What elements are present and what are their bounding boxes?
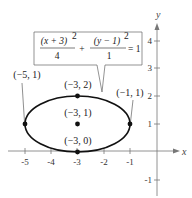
point-covertex-top — [75, 94, 80, 99]
point-center — [75, 122, 80, 127]
y-tick-label: 4 — [148, 36, 153, 46]
equation-term2-numerator: (y − 1) — [94, 36, 120, 47]
y-tick-label: 3 — [148, 63, 153, 73]
point-covertex-bottom — [75, 150, 80, 155]
leader-line — [131, 100, 134, 122]
point-label: (−3, 0) — [64, 135, 91, 147]
y-axis-label: y — [155, 9, 161, 20]
ellipse-chart: x -5 -4 -3 -2 -1 y -1 1 2 3 4 — [0, 0, 192, 198]
y-tick-label: -1 — [145, 175, 153, 185]
x-tick-label: -3 — [73, 157, 81, 167]
equation-equals: = 1 — [128, 44, 141, 54]
x-tick-label: -5 — [21, 157, 29, 167]
x-axis-label: x — [181, 146, 187, 157]
equation-plus: + — [79, 44, 84, 54]
point-label: (−3, 2) — [64, 79, 91, 91]
equation-term1-denominator: 4 — [55, 51, 60, 61]
x-tick-label: -4 — [47, 157, 55, 167]
x-tick-label: -2 — [100, 157, 108, 167]
x-axis: x -5 -4 -3 -2 -1 — [8, 146, 187, 167]
equation-term2-denominator: 1 — [107, 51, 112, 61]
point-label: (−5, 1) — [13, 69, 40, 81]
point-label: (−3, 1) — [64, 107, 91, 119]
leader-line — [22, 83, 25, 122]
point-vertex-left — [23, 122, 28, 127]
point-vertex-right — [128, 122, 133, 127]
x-tick-label: -1 — [126, 157, 134, 167]
point-label: (−1, 1) — [116, 87, 143, 99]
y-tick-label: 1 — [148, 119, 153, 129]
equation-term1-exponent: 2 — [72, 31, 77, 41]
equation-term2-exponent: 2 — [124, 31, 129, 41]
equation-term1-numerator: (x + 3) — [41, 36, 67, 47]
y-axis: y -1 1 2 3 4 — [145, 9, 162, 196]
y-tick-label: 2 — [148, 91, 153, 101]
